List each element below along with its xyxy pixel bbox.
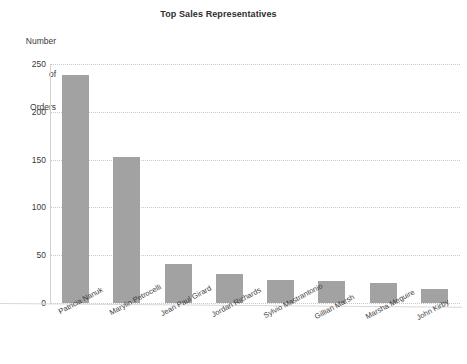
- y-axis-tick-label: 200: [2, 107, 46, 117]
- bar-chart: Top Sales Representatives Number of Orde…: [0, 0, 467, 364]
- y-axis-tick-label: 250: [2, 59, 46, 69]
- bar[interactable]: [62, 75, 89, 303]
- x-axis-tick-labels: Patricia NanukMarylin PetrocelliJean Pau…: [50, 305, 460, 364]
- y-axis-tick-labels: 050100150200250: [0, 64, 46, 303]
- y-axis-tick-label: 100: [2, 202, 46, 212]
- chart-title: Top Sales Representatives: [0, 9, 467, 19]
- bar[interactable]: [113, 157, 140, 303]
- y-axis-tick-label: 150: [2, 155, 46, 165]
- plot-area: [50, 64, 460, 303]
- chart-title-text: Top Sales Representatives: [160, 9, 276, 19]
- y-axis-title-line-1: Number: [4, 36, 56, 47]
- y-axis-tick-label: 50: [2, 250, 46, 260]
- gridline: [50, 207, 460, 208]
- gridline: [50, 64, 460, 65]
- gridline: [50, 160, 460, 161]
- gridline: [50, 112, 460, 113]
- gridline: [50, 255, 460, 256]
